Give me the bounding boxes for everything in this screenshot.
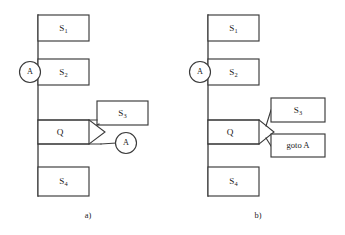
panel-b-label-q: Q (227, 127, 234, 137)
panel-b-box-q (208, 120, 259, 144)
panel-a-box-q (38, 120, 89, 144)
panel-a-entry-connector-label: A (27, 67, 33, 76)
panel-b-false-branch (266, 138, 271, 146)
panel-b-true-branch (266, 110, 271, 126)
panel-a-caption: a) (85, 211, 92, 220)
panel-a-exit-connector-label: A (123, 138, 129, 147)
flowchart-canvas: S1 S2 A Q S3 A S4 a) S1 (0, 0, 345, 235)
panel-a-false-branch (101, 143, 116, 144)
panel-b-entry-connector-label: A (197, 67, 203, 76)
panel-b-label-goto: goto A (286, 140, 310, 150)
panel-a: S1 S2 A Q S3 A S4 a) (20, 15, 149, 220)
panel-a-label-q: Q (57, 127, 64, 137)
panel-b: S1 S2 A Q S3 goto A S4 b) (190, 15, 326, 220)
flowchart-figure: S1 S2 A Q S3 A S4 a) S1 (0, 0, 345, 235)
panel-b-caption: b) (255, 211, 262, 220)
